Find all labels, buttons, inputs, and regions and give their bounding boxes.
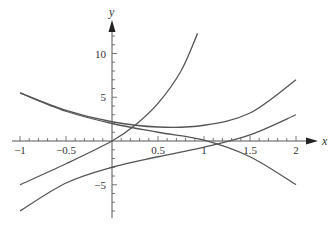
x-tick-label: 0.5	[151, 144, 165, 156]
x-tick-label: −0.5	[56, 144, 76, 156]
x-axis-arrow-icon	[306, 138, 318, 145]
y-tick-label: 5	[101, 91, 107, 103]
chart: xy−1−0.50.511.52−5510	[0, 0, 333, 232]
y-axis-label: y	[108, 5, 115, 19]
x-tick-label: 2	[293, 144, 299, 156]
y-tick-label: 10	[95, 48, 107, 60]
steep-curve	[20, 33, 198, 184]
y-axis-arrow-icon	[109, 20, 116, 32]
x-axis-label: x	[321, 134, 328, 148]
x-tick-label: 1	[201, 144, 207, 156]
x-tick-label: −1	[14, 144, 26, 156]
y-tick-label: −5	[94, 179, 106, 191]
lower-rising-curve	[20, 115, 296, 211]
